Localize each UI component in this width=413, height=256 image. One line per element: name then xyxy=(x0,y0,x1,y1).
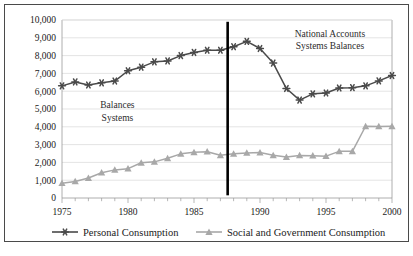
data-point xyxy=(85,82,92,88)
legend-entry[interactable]: Social and Government Consumption xyxy=(196,227,386,238)
left-annotation: BalancesSystems xyxy=(100,100,135,123)
legend-entry[interactable]: Personal Consumption xyxy=(52,227,179,238)
data-point xyxy=(375,78,382,84)
y-axis-tick-label: 2,000 xyxy=(35,158,57,168)
data-point xyxy=(217,47,224,53)
data-point xyxy=(177,53,184,59)
x-axis-tick-label: 1980 xyxy=(119,207,138,217)
line-chart: 01,0002,0003,0004,0005,0006,0007,0008,00… xyxy=(0,0,413,256)
data-point xyxy=(336,85,343,91)
data-point xyxy=(362,83,369,89)
legend-label: Personal Consumption xyxy=(83,227,179,238)
data-point xyxy=(98,80,105,86)
data-point xyxy=(164,58,171,64)
data-point xyxy=(72,79,79,85)
y-axis-tick-label: 5,000 xyxy=(35,104,57,114)
x-axis-tick-label: 1995 xyxy=(317,207,336,217)
data-point xyxy=(349,85,356,91)
y-axis-tick-label: 9,000 xyxy=(35,33,57,43)
chart-legend: Personal ConsumptionSocial and Governmen… xyxy=(52,227,386,238)
data-point xyxy=(204,47,211,53)
data-point xyxy=(230,44,237,50)
y-axis-tick-label: 8,000 xyxy=(35,51,57,61)
annotation-line: Systems xyxy=(102,113,134,123)
data-point xyxy=(138,64,145,70)
y-axis-tick-label: 6,000 xyxy=(35,87,57,97)
legend-label: Social and Government Consumption xyxy=(227,227,386,238)
y-axis-tick-label: 0 xyxy=(51,193,56,203)
right-annotation: National AccountsSystems Balances xyxy=(295,29,366,52)
y-axis-tick-label: 3,000 xyxy=(35,140,57,150)
annotation-line: Systems Balances xyxy=(296,41,365,51)
chart-figure: 01,0002,0003,0004,0005,0006,0007,0008,00… xyxy=(0,0,413,256)
data-point xyxy=(309,91,316,97)
x-axis-tick-label: 1985 xyxy=(185,207,204,217)
legend-marker xyxy=(62,229,69,235)
y-axis-tick-label: 4,000 xyxy=(35,122,57,132)
x-axis-tick-label: 2000 xyxy=(383,207,402,217)
y-axis-tick-label: 1,000 xyxy=(35,176,57,186)
data-point xyxy=(151,59,158,65)
x-axis-tick-label: 1990 xyxy=(251,207,270,217)
y-axis-tick-label: 7,000 xyxy=(35,69,57,79)
x-axis-tick-label: 1975 xyxy=(53,207,72,217)
annotation-line: Balances xyxy=(100,100,135,110)
data-point xyxy=(191,49,198,55)
y-axis-tick-label: 10,000 xyxy=(30,15,56,25)
annotation-line: National Accounts xyxy=(295,29,366,39)
